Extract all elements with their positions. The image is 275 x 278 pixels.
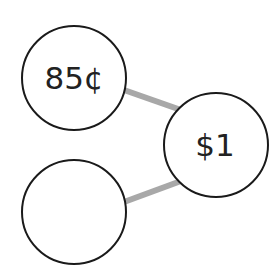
whole-label: $1: [195, 127, 234, 163]
part-circle-bottom[interactable]: [22, 160, 126, 264]
connector-top: [124, 90, 181, 110]
whole-circle: $1: [164, 93, 268, 197]
number-bond-diagram: 85¢ $1: [0, 0, 275, 278]
part-top-label: 85¢: [44, 60, 103, 96]
connector-bottom: [124, 181, 181, 202]
part-circle-top: 85¢: [22, 26, 126, 130]
